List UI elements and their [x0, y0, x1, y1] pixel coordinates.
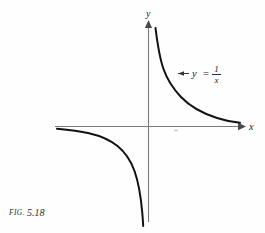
curve-equation-label: y = 1 x	[191, 64, 221, 85]
annotation-pointer-arrowhead	[178, 71, 184, 76]
curve-label-y: y	[191, 68, 197, 79]
hyperbola-branch-positive	[156, 28, 241, 123]
graph-canvas: y x y = 1 x FIG. 5.18	[0, 0, 265, 233]
hyperbola-branch-negative	[57, 129, 143, 226]
curve-label-equals: =	[203, 68, 209, 79]
figure-container: y x y = 1 x FIG. 5.18	[0, 0, 265, 233]
y-axis-label: y	[145, 8, 151, 19]
curve-label-denominator: x	[214, 75, 219, 85]
figure-caption: FIG. 5.18	[8, 207, 45, 218]
x-axis-arrowhead	[238, 123, 246, 130]
curve-label-numerator: 1	[214, 64, 219, 74]
figure-caption-prefix: FIG.	[8, 208, 25, 217]
figure-caption-number: 5.18	[27, 207, 45, 218]
y-axis-arrowhead	[145, 20, 152, 28]
paper-smudge-artifact	[174, 129, 178, 131]
x-axis-label: x	[248, 121, 254, 132]
